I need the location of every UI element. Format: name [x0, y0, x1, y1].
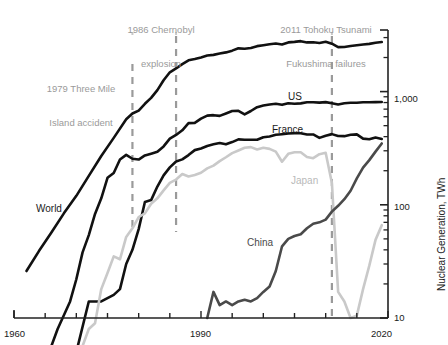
annotation-fukushima-label: 2011 Tohoku Tsunami Fukushima failures — [261, 2, 391, 92]
x-tick-label-1960: 1960 — [4, 328, 25, 339]
series-label-china: China — [247, 237, 273, 249]
annotation-tmi-line1: 1979 Three Mile — [33, 83, 129, 94]
x-tick-label-2020: 2020 — [371, 328, 392, 339]
y-tick-label-100: 100 — [394, 201, 410, 212]
series-label-us: US — [288, 91, 302, 103]
y-tick-label-1000: 1,000 — [394, 93, 418, 104]
series-label-world: World — [36, 203, 62, 215]
series-label-france: France — [272, 124, 303, 136]
annotation-three-mile-island-label: 1979 Three Mile Island accident — [33, 61, 129, 151]
series-line-china — [207, 143, 382, 318]
annotation-tmi-line2: Island accident — [33, 117, 129, 128]
y-tick-label-10: 10 — [394, 312, 405, 323]
series-line-japan — [76, 147, 381, 345]
series-label-japan: Japan — [291, 175, 318, 187]
annotation-chernobyl-line1: 1986 Chernobyl — [115, 24, 207, 35]
annotation-fukushima-line2: Fukushima failures — [261, 58, 391, 69]
y-axis-title: Nuclear Generation, TWh — [436, 178, 448, 291]
x-tick-label-1990: 1990 — [190, 328, 211, 339]
annotation-fukushima-line1: 2011 Tohoku Tsunami — [261, 24, 391, 35]
